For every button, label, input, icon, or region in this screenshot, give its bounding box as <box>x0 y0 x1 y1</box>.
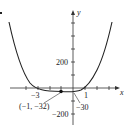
x-axis-label: x <box>119 88 124 97</box>
y-tick-label-200: 200 <box>56 58 68 67</box>
min-point-marker <box>59 90 63 94</box>
chart: y x 200 −200 −3 1 (−1, −32) −30 <box>0 0 132 130</box>
x-tick-label-neg3: −3 <box>31 91 40 100</box>
y-tick-label-neg200: −200 <box>52 110 69 119</box>
min-point-label: (−1, −32) <box>19 102 50 111</box>
y-intercept-leader <box>74 93 80 103</box>
y-intercept-label: −30 <box>76 103 89 112</box>
curve <box>9 22 112 92</box>
y-axis-arrow-icon <box>71 10 75 15</box>
y-axis-label: y <box>76 8 81 17</box>
x-tick-label-1: 1 <box>84 91 88 100</box>
bullet-marker <box>0 12 2 14</box>
